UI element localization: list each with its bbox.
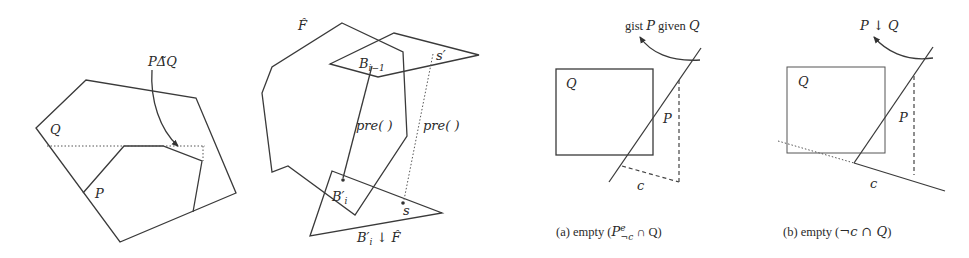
dashed-constraint-c (622, 166, 679, 182)
panel-a: gist P given Q Q P c (a) empty (Pe¬c ∩ Q… (556, 18, 701, 242)
label-p: P (662, 111, 672, 126)
label-c: c (637, 178, 645, 193)
caption-b: (b) empty (¬c ∩ Q) (783, 224, 891, 239)
label-s-prime: s′ (436, 48, 446, 63)
label-f-hat: F̂ (297, 18, 308, 33)
arrow-to-difference (152, 70, 178, 146)
polygon-p (83, 146, 202, 212)
label-restriction: B′i ↓ F̂ (356, 230, 402, 247)
panel-symmetric-difference: PΔ̃Q Q P (36, 54, 236, 242)
halfplane-boundary (854, 47, 933, 163)
label-b-prime-i: B′i (331, 189, 348, 206)
label-p-down-q: P ↓ Q (859, 18, 899, 33)
region-b-prime-i (310, 171, 442, 236)
halfplane-boundary (609, 48, 701, 182)
label-pre-solid: pre( ) (356, 118, 393, 133)
label-p: P (94, 186, 104, 201)
label-p-delta-q: PΔ̃Q (147, 54, 177, 69)
label-c: c (870, 176, 878, 191)
label-p: P (898, 110, 908, 125)
label-gist: gist P given Q (625, 18, 700, 33)
arrow-gist (640, 37, 700, 60)
label-b-i-minus-1: Bi−1 (358, 56, 385, 73)
polygon-q (36, 80, 236, 242)
constraint-c-dotted (778, 141, 854, 163)
caption-a: (a) empty (Pe¬c ∩ Q) (556, 223, 662, 242)
label-pre-dotted: pre( ) (423, 118, 460, 133)
label-box-q: Q (566, 76, 577, 91)
panel-preimage: F̂ Bi−1 pre( ) pre( ) s′ s B′i B′i ↓ F̂ (262, 18, 479, 247)
figure-canvas: PΔ̃Q Q P F̂ Bi−1 pre( ) pre( ) s′ s B′i … (0, 0, 969, 258)
panel-b: P ↓ Q Q P c (b) empty (¬c ∩ Q) (778, 18, 945, 239)
label-s: s (403, 203, 410, 218)
constraint-c-solid (854, 163, 945, 191)
point-b-prime (341, 178, 345, 182)
label-box-q: Q (798, 74, 809, 89)
label-q: Q (50, 122, 61, 137)
arrow-restrict (874, 37, 933, 59)
